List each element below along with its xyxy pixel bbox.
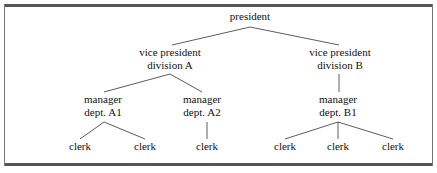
org-node-clerk-3: clerk bbox=[196, 140, 218, 153]
edge-mgr-a1-to-clerk-1 bbox=[80, 122, 104, 139]
org-node-clerk-6: clerk bbox=[382, 140, 404, 153]
org-node-label-line: manager bbox=[84, 93, 122, 106]
org-node-label-line: clerk bbox=[196, 140, 218, 153]
org-node-vp-a: vice presidentdivision A bbox=[139, 46, 200, 71]
org-node-mgr-b1: managerdept. B1 bbox=[319, 93, 357, 118]
org-node-label-line: manager bbox=[319, 93, 357, 106]
org-node-clerk-4: clerk bbox=[274, 140, 296, 153]
edge-vp-a-to-mgr-a2 bbox=[170, 74, 202, 92]
org-node-label-line: division B bbox=[309, 59, 370, 72]
org-node-label-line: dept. A1 bbox=[84, 106, 122, 119]
org-node-clerk-1: clerk bbox=[69, 140, 91, 153]
org-node-president: president bbox=[230, 10, 270, 23]
edge-mgr-b1-to-clerk-6 bbox=[338, 122, 393, 139]
org-node-label-line: vice president bbox=[309, 46, 370, 59]
org-node-label-line: clerk bbox=[134, 140, 156, 153]
org-node-vp-b: vice presidentdivision B bbox=[309, 46, 370, 71]
org-node-label-line: clerk bbox=[327, 140, 349, 153]
org-node-label-line: president bbox=[230, 10, 270, 23]
org-node-label-line: dept. B1 bbox=[319, 106, 357, 119]
org-node-label-line: clerk bbox=[382, 140, 404, 153]
edge-mgr-b1-to-clerk-4 bbox=[285, 122, 338, 139]
org-node-label-line: manager bbox=[183, 93, 221, 106]
org-node-label-line: division A bbox=[139, 59, 200, 72]
edge-vp-a-to-mgr-a1 bbox=[104, 74, 170, 92]
edge-president-to-vp-a bbox=[172, 27, 250, 45]
org-chart-figure: presidentvice presidentdivision Avice pr… bbox=[0, 0, 437, 173]
connector-lines bbox=[0, 0, 437, 173]
org-node-clerk-2: clerk bbox=[134, 140, 156, 153]
org-node-label-line: vice president bbox=[139, 46, 200, 59]
edge-president-to-vp-b bbox=[250, 27, 339, 45]
org-node-label-line: clerk bbox=[274, 140, 296, 153]
org-node-label-line: dept. A2 bbox=[183, 106, 221, 119]
org-node-mgr-a1: managerdept. A1 bbox=[84, 93, 122, 118]
org-node-clerk-5: clerk bbox=[327, 140, 349, 153]
org-node-mgr-a2: managerdept. A2 bbox=[183, 93, 221, 118]
org-node-label-line: clerk bbox=[69, 140, 91, 153]
edge-mgr-a1-to-clerk-2 bbox=[104, 122, 145, 139]
